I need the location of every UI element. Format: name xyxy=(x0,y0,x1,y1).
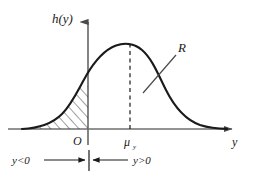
curve-label-R: R xyxy=(177,40,186,55)
y-axis-label: h(y) xyxy=(52,11,73,26)
origin-label: O xyxy=(73,134,82,148)
positive-region-label: y>0 xyxy=(132,154,151,166)
curve-label-leader-line xyxy=(143,55,176,93)
mean-label-group: μ y xyxy=(123,135,137,151)
density-curve xyxy=(22,44,227,129)
mean-subscript-label: y xyxy=(132,143,137,151)
negative-region-label: y<0 xyxy=(11,154,30,166)
x-axis-label: y xyxy=(231,135,238,149)
density-curve-figure: h(y) y O μ y R y<0 y>0 xyxy=(0,0,254,177)
figure-container: h(y) y O μ y R y<0 y>0 xyxy=(0,0,254,177)
region-bracket xyxy=(44,150,128,171)
mean-label: μ xyxy=(123,135,130,149)
